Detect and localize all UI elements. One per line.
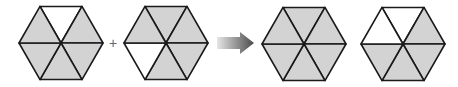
- hex-3: [262, 7, 346, 80]
- plus-operator: +: [109, 36, 117, 50]
- hex-2: [124, 6, 208, 79]
- hex-1: [19, 6, 103, 79]
- right-arrow-icon: [217, 32, 254, 54]
- hex-4: [361, 7, 445, 80]
- fraction-addition-diagram: [0, 0, 458, 87]
